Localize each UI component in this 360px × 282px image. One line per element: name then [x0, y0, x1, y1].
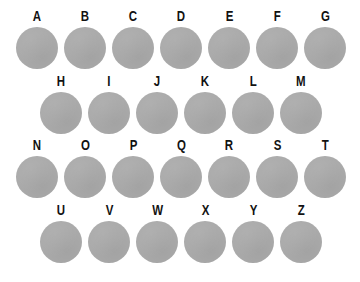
- circle-label: B: [81, 9, 89, 25]
- circle-swatch-wrap: [87, 221, 131, 265]
- circle-swatch-wrap: [159, 27, 203, 71]
- circle-label: X: [201, 203, 208, 219]
- circle-swatch-wrap: [15, 156, 59, 200]
- circle-label: A: [33, 9, 41, 25]
- labeled-circle-item[interactable]: H: [37, 74, 85, 139]
- circle-label: V: [105, 203, 112, 219]
- labeled-circle-item[interactable]: T: [301, 138, 349, 203]
- circle-swatch[interactable]: [304, 27, 346, 69]
- labeled-circle-item[interactable]: G: [301, 9, 349, 74]
- circle-label: K: [201, 74, 209, 90]
- labeled-circle-item[interactable]: X: [181, 203, 229, 268]
- circle-label: Z: [298, 203, 305, 219]
- labeled-circle-item[interactable]: I: [85, 74, 133, 139]
- circle-row-2: H I J K L: [37, 74, 325, 139]
- circle-label: P: [129, 138, 136, 154]
- circle-label: L: [250, 74, 257, 90]
- circle-label: O: [81, 138, 90, 154]
- circle-swatch[interactable]: [88, 92, 130, 134]
- labeled-circle-item[interactable]: F: [253, 9, 301, 74]
- circle-swatch[interactable]: [208, 27, 250, 69]
- circle-row-1: A B C D E: [13, 9, 349, 74]
- circle-swatch-wrap: [159, 156, 203, 200]
- circle-label: E: [225, 9, 232, 25]
- circle-label: J: [154, 74, 160, 90]
- labeled-circle-item[interactable]: P: [109, 138, 157, 203]
- circle-swatch[interactable]: [184, 221, 226, 263]
- circle-label: M: [296, 74, 305, 90]
- circle-swatch-wrap: [111, 27, 155, 71]
- labeled-circle-item[interactable]: W: [133, 203, 181, 268]
- circle-label: T: [322, 138, 329, 154]
- circle-swatch[interactable]: [256, 156, 298, 198]
- circle-swatch[interactable]: [184, 92, 226, 134]
- circle-swatch[interactable]: [232, 92, 274, 134]
- labeled-circle-item[interactable]: M: [277, 74, 325, 139]
- labeled-circle-item[interactable]: B: [61, 9, 109, 74]
- circle-swatch-wrap: [135, 221, 179, 265]
- labeled-circle-item[interactable]: U: [37, 203, 85, 268]
- circle-swatch[interactable]: [16, 156, 58, 198]
- circle-label: F: [274, 9, 281, 25]
- labeled-circle-item[interactable]: E: [205, 9, 253, 74]
- labeled-circle-item[interactable]: R: [205, 138, 253, 203]
- circle-swatch-wrap: [231, 221, 275, 265]
- circle-swatch[interactable]: [40, 92, 82, 134]
- circle-swatch[interactable]: [40, 221, 82, 263]
- circle-swatch[interactable]: [112, 27, 154, 69]
- circle-label: W: [152, 203, 163, 219]
- circle-row-4: U V W X Y: [37, 203, 325, 268]
- circle-swatch-wrap: [279, 221, 323, 265]
- labeled-circle-item[interactable]: C: [109, 9, 157, 74]
- circle-swatch-wrap: [15, 27, 59, 71]
- circle-swatch-wrap: [39, 92, 83, 136]
- circle-swatch[interactable]: [304, 156, 346, 198]
- labeled-circle-item[interactable]: J: [133, 74, 181, 139]
- circle-swatch-wrap: [207, 27, 251, 71]
- circle-swatch[interactable]: [208, 156, 250, 198]
- circle-swatch[interactable]: [160, 156, 202, 198]
- circle-label: G: [321, 9, 330, 25]
- circle-swatch-wrap: [87, 92, 131, 136]
- labeled-circle-item[interactable]: Z: [277, 203, 325, 268]
- circle-swatch[interactable]: [280, 92, 322, 134]
- circle-row-3: N O P Q R: [13, 138, 349, 203]
- labeled-circle-item[interactable]: A: [13, 9, 61, 74]
- labeled-circle-item[interactable]: N: [13, 138, 61, 203]
- circle-label: C: [129, 9, 137, 25]
- labeled-circle-item[interactable]: Q: [157, 138, 205, 203]
- labeled-circle-item[interactable]: K: [181, 74, 229, 139]
- circle-swatch[interactable]: [112, 156, 154, 198]
- circle-swatch[interactable]: [64, 27, 106, 69]
- circle-swatch-wrap: [135, 92, 179, 136]
- circle-swatch[interactable]: [232, 221, 274, 263]
- circle-swatch-wrap: [279, 92, 323, 136]
- circle-swatch[interactable]: [88, 221, 130, 263]
- circle-label: U: [57, 203, 65, 219]
- circle-swatch-wrap: [255, 156, 299, 200]
- labeled-circle-item[interactable]: Y: [229, 203, 277, 268]
- labeled-circle-item[interactable]: S: [253, 138, 301, 203]
- circle-swatch[interactable]: [64, 156, 106, 198]
- labeled-circle-item[interactable]: L: [229, 74, 277, 139]
- circle-swatch-wrap: [207, 156, 251, 200]
- circle-swatch[interactable]: [280, 221, 322, 263]
- circle-swatch[interactable]: [256, 27, 298, 69]
- circle-swatch-wrap: [39, 221, 83, 265]
- circle-swatch[interactable]: [16, 27, 58, 69]
- circle-label: I: [108, 74, 111, 90]
- circle-label: Y: [249, 203, 256, 219]
- circle-swatch-wrap: [183, 92, 227, 136]
- circle-swatch-wrap: [303, 27, 347, 71]
- circle-swatch[interactable]: [160, 27, 202, 69]
- labeled-circle-item[interactable]: D: [157, 9, 205, 74]
- circle-swatch[interactable]: [136, 92, 178, 134]
- circle-label: H: [57, 74, 65, 90]
- circle-swatch[interactable]: [136, 221, 178, 263]
- circle-swatch-wrap: [63, 27, 107, 71]
- labeled-circle-item[interactable]: V: [85, 203, 133, 268]
- circle-label: Q: [177, 138, 186, 154]
- circle-label: D: [177, 9, 185, 25]
- labeled-circle-item[interactable]: O: [61, 138, 109, 203]
- circle-swatch-wrap: [231, 92, 275, 136]
